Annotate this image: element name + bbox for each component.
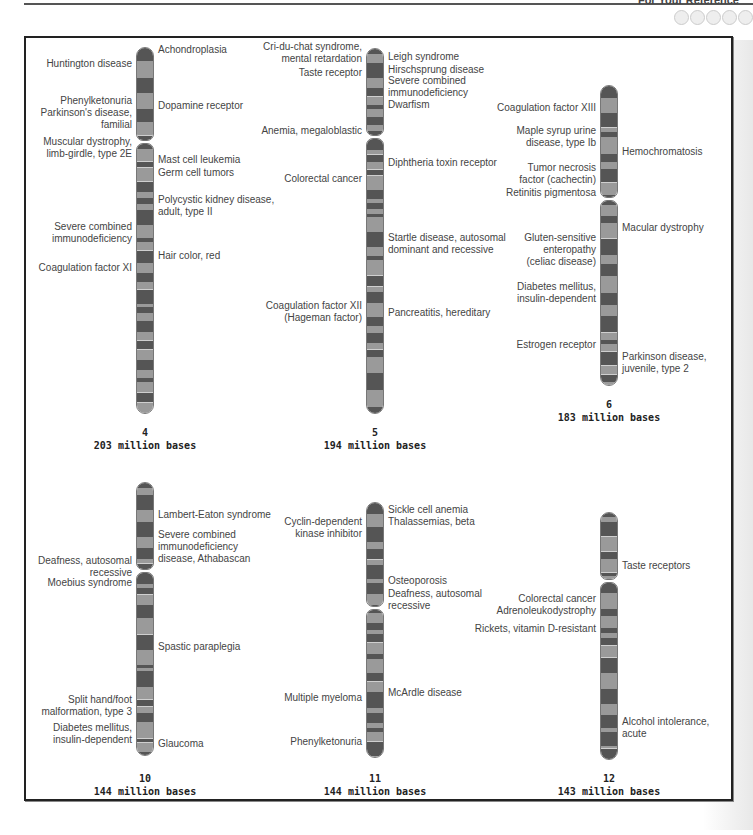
chromosome-band: [137, 93, 153, 109]
chromosome-size: 144 million bases: [65, 785, 225, 798]
chromosome-6-q-arm: [600, 200, 618, 386]
gene-label-right: Thalassemias, beta: [388, 516, 475, 528]
chromosome-11-q-arm: [366, 609, 384, 758]
chromosome-band: [137, 618, 153, 635]
chromosome-band: [601, 169, 617, 183]
chromosome-band: [137, 210, 153, 225]
chromosome-band: [367, 54, 383, 63]
chromosome-size: 143 million bases: [529, 785, 689, 798]
gene-label-left: Rickets, vitamin D-resistant: [475, 623, 596, 635]
chromosome-band: [601, 137, 617, 154]
gene-label-left: Deafness, autosomalrecessive: [38, 555, 132, 579]
chromosome-caption: 12143 million bases: [529, 772, 689, 798]
gene-label-left: Split hand/footmalformation, type 3: [41, 694, 132, 718]
chromosome-band: [367, 139, 383, 150]
gene-label-left: Coagulation factor XII(Hageman factor): [266, 300, 362, 324]
gene-label-right: Deafness, autosomalrecessive: [388, 588, 482, 612]
chromosome-band: [367, 260, 383, 276]
chromosome-band: [601, 162, 617, 169]
chromosome-band: [137, 48, 153, 61]
gene-label-left: Phenylketonuria: [290, 736, 362, 748]
chromosome-band: [367, 155, 383, 162]
gene-label-left: Diabetes mellitus,insulin-dependent: [517, 281, 596, 305]
chromosome-band: [601, 352, 617, 366]
gene-label-right: Hair color, red: [158, 250, 220, 262]
chromosome-band: [601, 689, 617, 704]
decorative-circles: [674, 10, 753, 25]
gene-label-left: Coagulation factor XI: [39, 262, 132, 274]
chromosome-band: [367, 176, 383, 190]
chromosome-band: [367, 190, 383, 199]
gene-label-right: Mast cell leukemia: [158, 154, 240, 166]
chromosome-caption: 6183 million bases: [529, 398, 689, 424]
chromosome-band: [367, 623, 383, 630]
chromosome-band: [137, 650, 153, 665]
gene-label-left: Severe combinedimmunodeficiency: [52, 221, 132, 245]
chromosome-band: [367, 613, 383, 623]
chromosome-number: 6: [529, 398, 689, 411]
chromosome-band: [601, 255, 617, 264]
chromosome-6-p-arm: [600, 85, 618, 198]
chromosome-band: [601, 749, 617, 760]
gene-label-right: Lambert-Eaton syndrome: [158, 509, 271, 521]
chromosome-band: [601, 616, 617, 628]
chromosome-band: [367, 594, 383, 605]
chromosome-band: [137, 573, 153, 584]
gene-label-right: Parkinson disease,juvenile, type 2: [622, 351, 707, 375]
chromosome-band: [137, 403, 153, 414]
gene-label-right: Polycystic kidney disease,adult, type II: [158, 194, 274, 218]
chromosome-band: [367, 682, 383, 692]
chromosome-band: [601, 715, 617, 728]
chromosome-band: [601, 537, 617, 552]
chromosome-band: [367, 542, 383, 549]
chromosome-band: [601, 552, 617, 559]
chromosome-band: [137, 722, 153, 739]
gene-label-right: Diphtheria toxin receptor: [388, 157, 497, 169]
chromosome-band: [367, 407, 383, 414]
gene-label-left: Cyclin-dependentkinase inhibitor: [284, 516, 362, 540]
gene-label-left: Muscular dystrophy,limb-girdle, type 2E: [43, 136, 132, 160]
chromosome-band: [601, 264, 617, 276]
chromosome-band: [137, 635, 153, 650]
gene-label-right: Germ cell tumors: [158, 167, 234, 179]
chromosome-band: [137, 78, 153, 93]
chromosome-band: [601, 583, 617, 593]
chromosome-band: [601, 223, 617, 239]
chromosome-band: [367, 659, 383, 673]
chromosome-band: [367, 373, 383, 390]
gene-label-right: McArdle disease: [388, 687, 462, 699]
chromosome-band: [601, 673, 617, 689]
chromosome-10-q-arm: [136, 572, 154, 756]
gene-label-right: Taste receptors: [622, 560, 690, 572]
chromosome-10-p-arm: [136, 482, 154, 570]
gene-label-right: Achondroplasia: [158, 44, 227, 56]
chromosome-band: [601, 559, 617, 573]
chromosome-band: [601, 239, 617, 255]
chromosome-band: [367, 692, 383, 708]
gene-label-right: Startle disease, autosomaldominant and r…: [388, 232, 506, 256]
chromosome-caption: 4203 million bases: [65, 426, 225, 452]
chromosome-band: [367, 232, 383, 247]
chromosome-band: [137, 495, 153, 510]
gene-label-left: Maple syrup urinedisease, type Ib: [517, 125, 596, 149]
chromosome-band: [367, 292, 383, 303]
chromosome-band: [367, 350, 383, 357]
chromosome-caption: 10144 million bases: [65, 772, 225, 798]
gene-label-right: Severe combinedimmunodeficiency: [388, 75, 468, 99]
chromosome-band: [601, 305, 617, 316]
chromosome-band: [137, 109, 153, 122]
chromosome-band: [137, 605, 153, 618]
chromosome-band: [137, 743, 153, 752]
chromosome-band: [137, 273, 153, 282]
gene-label-left: PhenylketonuriaParkinson's disease,famil…: [41, 95, 132, 131]
gene-label-left: Coagulation factor XIII: [497, 102, 596, 114]
chromosome-band: [137, 671, 153, 687]
chromosome-band: [137, 263, 153, 273]
chromosome-band: [367, 78, 383, 88]
chromosome-number: 12: [529, 772, 689, 785]
gene-label-right: Pancreatitis, hereditary: [388, 307, 490, 319]
chromosome-band: [367, 303, 383, 317]
gene-label-left: Taste receptor: [299, 67, 362, 79]
gene-label-right: Severe combinedimmunodeficiencydisease, …: [158, 529, 250, 565]
chromosome-band: [137, 225, 153, 238]
